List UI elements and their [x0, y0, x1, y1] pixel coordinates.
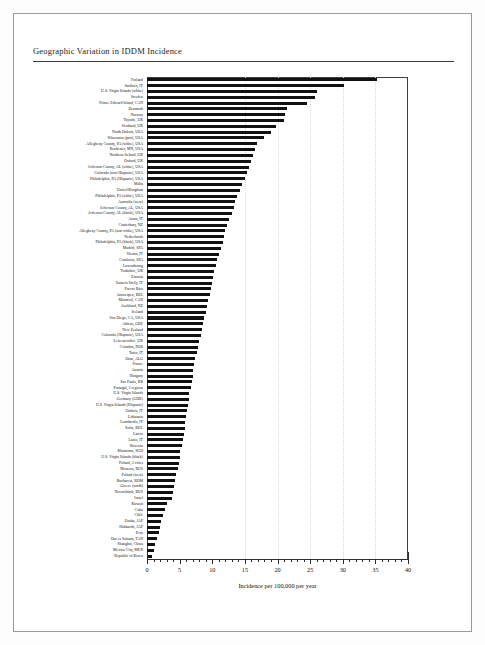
page-title: Geographic Variation in IDDM Incidence — [33, 46, 454, 56]
y-axis-label: France — [132, 362, 143, 366]
page-canvas: Geographic Variation in IDDM Incidence F… — [0, 0, 485, 645]
y-axis-label: Lithuania — [128, 415, 143, 419]
y-axis-label: Wisconsin (part), USA — [107, 136, 143, 140]
y-axis-label: Puerto Rico — [125, 287, 143, 291]
x-axis-minor-tick — [154, 559, 155, 562]
x-axis-tick-label: 25 — [307, 566, 313, 573]
y-axis-label: Antwerpen, BEL — [116, 293, 143, 297]
y-axis-label: Colorado (Hispanic), USA — [101, 333, 143, 337]
y-axis-label: Israel — [134, 496, 143, 500]
bar — [147, 531, 159, 534]
y-axis-label: Tayside, UK — [123, 118, 143, 122]
y-axis-label: Bucharest, ROM — [117, 479, 143, 483]
bar — [147, 450, 180, 453]
bar — [147, 195, 237, 198]
bar — [147, 270, 214, 273]
bar — [147, 119, 284, 122]
y-axis-label: Prince Edward Island, CAN — [99, 101, 143, 105]
y-axis-label: Cuba — [135, 508, 143, 512]
bar — [147, 363, 194, 366]
bar — [147, 224, 227, 227]
x-axis-minor-tick — [284, 559, 285, 562]
bar — [147, 125, 276, 128]
y-axis-label: Catalonia, SPA — [119, 258, 143, 262]
x-axis-minor-tick — [258, 559, 259, 562]
y-axis-label: U.S. Virgin Islands (white) — [101, 89, 143, 93]
bar — [147, 241, 223, 244]
bar — [147, 340, 199, 343]
bar — [147, 247, 221, 250]
x-axis-minor-tick — [395, 559, 396, 562]
bar — [147, 502, 167, 505]
bar — [147, 299, 208, 302]
x-axis-minor-tick — [297, 559, 298, 562]
bar — [147, 96, 315, 99]
x-axis-minor-tick — [291, 559, 292, 562]
bar — [147, 375, 193, 378]
x-axis-major-tick — [245, 559, 246, 564]
y-axis-label: Scotland, UK — [122, 124, 143, 128]
y-axis-label: Turin, IT — [129, 351, 143, 355]
x-axis-major-tick — [408, 559, 409, 564]
y-axis-label: Iceland — [132, 310, 143, 314]
x-axis-minor-tick — [238, 559, 239, 562]
bar — [147, 177, 245, 180]
x-axis-minor-tick — [382, 559, 383, 562]
bar — [147, 409, 187, 412]
x-axis-minor-tick — [206, 559, 207, 562]
y-axis-label: Portugal, 3 regions — [113, 386, 143, 390]
x-axis-minor-tick — [401, 559, 402, 562]
y-axis-label: U.S. Virgin Islands (Hispanic) — [96, 403, 143, 407]
y-axis-label: Greece (north) — [120, 484, 143, 488]
y-axis-label: Rochester, MN, USA — [110, 147, 143, 151]
x-axis-minor-tick — [173, 559, 174, 562]
bar — [147, 148, 255, 151]
y-axis-label: Canterbury, NZ — [119, 223, 143, 227]
x-axis-minor-tick — [160, 559, 161, 562]
x-axis-minor-tick — [219, 559, 220, 562]
y-axis-label: Kuwait — [132, 502, 143, 506]
bar — [147, 357, 195, 360]
title-divider — [33, 61, 454, 62]
x-axis-minor-tick — [330, 559, 331, 562]
y-axis-label: Leicestershire, UK — [114, 339, 143, 343]
bar — [147, 218, 229, 221]
y-axis-label: Vienna, IT — [126, 252, 143, 256]
x-axis-title: Incidence per 100,000 per year — [147, 582, 408, 589]
bar — [147, 113, 285, 116]
bar — [147, 84, 344, 87]
y-axis-label: Sao Paulo, BR — [120, 380, 143, 384]
y-axis-label: Peru — [136, 531, 143, 535]
y-axis-label: Poland, 3 cities — [119, 461, 143, 465]
y-axis-label: U.S. Virgin Islands (black) — [101, 455, 143, 459]
bar — [147, 212, 232, 215]
y-axis-label: Montreal, CAN — [119, 298, 143, 302]
y-axis-label: Jefferson County, AL, USA — [100, 206, 143, 210]
y-axis-label: Chile — [135, 513, 143, 517]
bar — [147, 282, 212, 285]
x-axis-minor-tick — [323, 559, 324, 562]
y-axis-label: Athens, GRE — [122, 322, 143, 326]
x-axis-minor-tick — [369, 559, 370, 562]
bar — [147, 322, 203, 325]
y-axis-label: Eastern Sicily, IT — [116, 281, 143, 285]
bar — [147, 415, 186, 418]
x-axis-minor-tick — [304, 559, 305, 562]
y-axis-label: Yorkshire, UK — [120, 269, 143, 273]
x-axis-tick-label: 5 — [178, 566, 181, 573]
y-axis-label: Germany (GDR) — [117, 397, 143, 401]
bar — [147, 253, 219, 256]
bar — [147, 369, 193, 372]
y-axis-label: Oxford, UK — [124, 159, 143, 163]
y-axis-category-labels: FinlandSardinia, ITU.S. Virgin Islands (… — [33, 77, 145, 559]
bar — [147, 107, 287, 110]
y-axis-label: Sweden — [131, 95, 143, 99]
bar — [147, 235, 224, 238]
y-axis-label: Aosta, IT — [128, 217, 143, 221]
x-axis-minor-tick — [199, 559, 200, 562]
y-axis-label: Allegheny County, PA (non-white), USA — [79, 229, 143, 233]
bar — [147, 351, 197, 354]
bar — [147, 433, 184, 436]
bar — [147, 334, 201, 337]
x-axis-minor-tick — [349, 559, 350, 562]
